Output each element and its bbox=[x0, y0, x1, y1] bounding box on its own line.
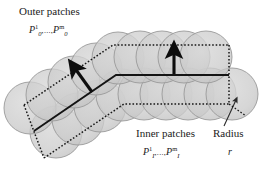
inner-patches-math-label: P1I,...,PmI bbox=[143, 146, 179, 160]
inner-math-separator: ,..., bbox=[155, 148, 167, 157]
radius-label: Radius bbox=[213, 128, 244, 139]
inner-math-sup-1: 1 bbox=[149, 145, 152, 152]
outer-math-sup-2: m bbox=[59, 23, 64, 30]
outer-patches-math-label: P10,...,Pm0 bbox=[29, 24, 68, 38]
patch-chain-figure: Outer patches P10,...,Pm0 Inner patches … bbox=[0, 0, 266, 178]
radius-symbol-label: r bbox=[228, 147, 232, 157]
outer-math-sub-2: 0 bbox=[64, 30, 67, 37]
inner-math-sup-2: m bbox=[172, 145, 177, 152]
inner-patches-label: Inner patches bbox=[136, 128, 195, 139]
outer-patches-label: Outer patches bbox=[19, 6, 80, 17]
inner-math-sub-2: I bbox=[177, 152, 179, 159]
outer-math-separator: ,..., bbox=[42, 26, 54, 35]
outer-math-sup-1: 1 bbox=[35, 23, 38, 30]
